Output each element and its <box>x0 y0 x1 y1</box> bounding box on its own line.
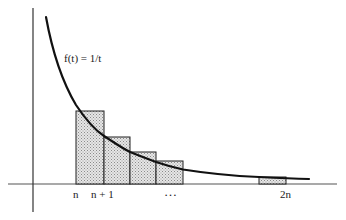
x-tick-label-n-plus-1: n + 1 <box>91 189 114 200</box>
riemann-sum-diagram: f(t) = 1/t n n + 1 … 2n <box>0 0 346 220</box>
x-tick-label-2n: 2n <box>280 189 291 200</box>
rectangle-group <box>76 111 286 184</box>
x-tick-label-ellipsis: … <box>164 185 177 198</box>
x-tick-label-n: n <box>73 189 79 200</box>
function-label: f(t) = 1/t <box>64 53 101 64</box>
